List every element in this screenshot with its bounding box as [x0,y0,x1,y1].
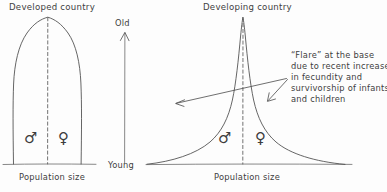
developing-male-symbol: ♂ [218,131,231,146]
developed-country-title: Developed country [9,2,95,14]
flare-annotation-line-4: survivorship of infants [291,83,387,94]
developed-country-chart [3,17,96,164]
flare-annotation-line-3: in fecundity and [291,72,387,83]
developing-baseline [146,164,352,165]
developing-country-title: Developing country [203,2,292,14]
developed-male-symbol: ♂ [24,131,37,146]
developing-female-symbol: ♀ [255,131,266,146]
age-axis-young-label: Young [108,160,134,171]
flare-pointer-right-line [268,80,287,101]
developed-female-symbol: ♀ [58,131,69,146]
developed-baseline [3,164,96,165]
developing-x-axis-label: Population size [214,172,280,183]
population-pyramid-figure: Developed country ♂ ♀ Population size Ol… [0,0,387,192]
flare-annotation-line-1: “Flare” at the base [291,50,387,61]
flare-pointer-left-line [176,79,286,104]
age-axis [120,32,129,163]
age-axis-old-label: Old [115,18,130,29]
flare-pointer-left-arrowhead [176,100,185,107]
flare-annotation-block: “Flare” at the base due to recent increa… [291,50,387,106]
flare-annotation-line-2: due to recent increases [291,61,387,72]
flare-annotation-line-5: and children [291,94,387,105]
developed-x-axis-label: Population size [19,172,85,183]
